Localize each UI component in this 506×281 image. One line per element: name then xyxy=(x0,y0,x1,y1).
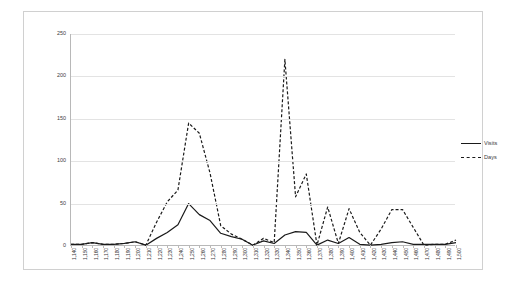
x-tick-label: 1,310 xyxy=(254,248,259,260)
x-tick-label: 1,160 xyxy=(94,248,99,260)
x-tick-label: 1,400 xyxy=(350,248,355,260)
y-tick-label: 150 xyxy=(57,116,66,121)
chart-legend: Visits Days xyxy=(461,136,506,164)
gridline xyxy=(71,161,455,162)
x-tick-label: 1,360 xyxy=(307,248,312,260)
x-tick-label: 1,470 xyxy=(425,248,430,260)
x-tick-label: 1,320 xyxy=(265,248,270,260)
y-axis-labels: 050100150200250 xyxy=(44,34,68,246)
gridline xyxy=(71,76,455,77)
y-tick-label: 250 xyxy=(57,31,66,36)
y-tick-label: 200 xyxy=(57,74,66,79)
x-tick-label: 1,370 xyxy=(318,248,323,260)
gridline xyxy=(71,119,455,120)
x-tick-label: 1,500 xyxy=(457,248,462,260)
plot-area xyxy=(70,34,455,246)
x-tick-label: 1,340 xyxy=(286,248,291,260)
series-line-days xyxy=(71,59,456,245)
legend-swatch-days-icon xyxy=(461,157,481,158)
y-tick-label: 100 xyxy=(57,158,66,163)
x-tick-label: 1,430 xyxy=(382,248,387,260)
chart-frame: 050100150200250 1,1401,1501,1601,1701,18… xyxy=(23,11,483,270)
x-tick-label: 1,240 xyxy=(179,248,184,260)
x-tick-label: 1,260 xyxy=(201,248,206,260)
x-tick-label: 1,180 xyxy=(115,248,120,260)
x-tick-label: 1,210 xyxy=(147,248,152,260)
x-tick-label: 1,450 xyxy=(404,248,409,260)
gridline xyxy=(71,204,455,205)
x-tick-label: 1,390 xyxy=(340,248,345,260)
gridline xyxy=(71,34,455,35)
legend-item-days: Days xyxy=(461,150,506,164)
x-tick-label: 1,150 xyxy=(83,248,88,260)
x-tick-label: 1,250 xyxy=(190,248,195,260)
x-tick-label: 1,410 xyxy=(361,248,366,260)
x-tick-label: 1,330 xyxy=(275,248,280,260)
x-axis-labels: 1,1401,1501,1601,1701,1801,1901,2001,210… xyxy=(70,248,455,281)
x-tick-label: 1,230 xyxy=(168,248,173,260)
x-tick-label: 1,490 xyxy=(447,248,452,260)
x-tick-label: 1,200 xyxy=(136,248,141,260)
legend-item-visits: Visits xyxy=(461,136,506,150)
series-lines xyxy=(71,34,456,246)
x-tick-label: 1,300 xyxy=(243,248,248,260)
x-tick-label: 1,190 xyxy=(126,248,131,260)
legend-swatch-visits-icon xyxy=(461,143,481,144)
x-tick-label: 1,420 xyxy=(372,248,377,260)
x-tick-label: 1,290 xyxy=(233,248,238,260)
x-tick-label: 1,380 xyxy=(329,248,334,260)
x-tick-label: 1,350 xyxy=(297,248,302,260)
x-tick-label: 1,270 xyxy=(211,248,216,260)
x-tick-label: 1,170 xyxy=(104,248,109,260)
x-tick-label: 1,280 xyxy=(222,248,227,260)
legend-label-visits: Visits xyxy=(484,140,497,146)
x-tick-label: 1,440 xyxy=(393,248,398,260)
x-tick-label: 1,140 xyxy=(72,248,77,260)
legend-label-days: Days xyxy=(484,154,497,160)
y-tick-label: 50 xyxy=(60,201,66,206)
x-tick-label: 1,460 xyxy=(414,248,419,260)
y-tick-label: 0 xyxy=(63,243,66,248)
x-tick-label: 1,480 xyxy=(436,248,441,260)
x-tick-label: 1,220 xyxy=(158,248,163,260)
